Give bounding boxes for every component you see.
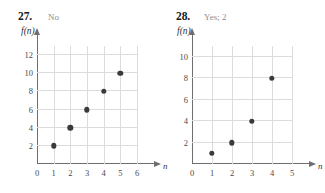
grid-line-horizontal — [192, 120, 292, 121]
problem-27-header: 27.No — [18, 6, 59, 24]
problem-number: 27. — [18, 10, 32, 22]
grid-line-vertical — [272, 46, 273, 164]
x-tick-label: 4 — [265, 168, 279, 178]
data-point — [229, 140, 234, 145]
y-tick-label: 6 — [29, 105, 33, 115]
grid-line-vertical — [137, 46, 138, 164]
data-point — [51, 143, 56, 148]
x-axis-arrow-icon — [309, 161, 316, 167]
grid-line-horizontal — [192, 56, 292, 57]
y-tick-label: 8 — [29, 86, 33, 96]
answer-key-page: 27.No f(n) n 246810120123456 28.Yes; 2 f… — [0, 0, 325, 193]
grid-line-vertical — [252, 46, 253, 164]
grid-line-vertical — [104, 46, 105, 164]
x-axis-label: n — [318, 161, 323, 171]
y-tick-label: 12 — [25, 50, 34, 60]
problem-number: 28. — [176, 10, 190, 22]
y-tick-label: 6 — [184, 95, 188, 105]
y-tick-label: 4 — [184, 116, 188, 126]
x-tick-label: 5 — [285, 168, 299, 178]
problem-28: 28.Yes; 2 f(n) n 246810012345 — [163, 0, 325, 193]
x-tick-label: 6 — [130, 168, 144, 178]
x-tick-label: 1 — [47, 168, 61, 178]
scatter-plot-27: n 246810120123456 — [37, 46, 137, 164]
grid-line-horizontal — [192, 99, 292, 100]
y-tick-label: 4 — [29, 123, 33, 133]
problem-answer: No — [48, 12, 59, 22]
grid-line-vertical — [292, 46, 293, 164]
grid-line-vertical — [120, 46, 121, 164]
y-tick-label: 10 — [25, 68, 34, 78]
data-point — [84, 107, 89, 112]
y-tick-label: 10 — [180, 52, 189, 62]
x-tick-label: 3 — [245, 168, 259, 178]
x-tick-label: 0 — [185, 168, 199, 178]
grid-line-horizontal — [192, 142, 292, 143]
data-point — [269, 75, 274, 80]
problem-answer: Yes; 2 — [204, 12, 226, 22]
data-point — [101, 89, 106, 94]
data-point — [118, 71, 123, 76]
data-point — [68, 125, 73, 130]
y-tick-label: 2 — [184, 138, 188, 148]
x-tick-label: 5 — [113, 168, 127, 178]
data-point — [209, 151, 214, 156]
problem-28-header: 28.Yes; 2 — [176, 6, 226, 24]
x-tick-label: 4 — [97, 168, 111, 178]
x-tick-label: 3 — [80, 168, 94, 178]
y-axis-arrow-icon — [34, 28, 40, 35]
x-axis-arrow-icon — [154, 161, 161, 167]
x-tick-label: 0 — [30, 168, 44, 178]
y-axis-label: f(n) — [21, 26, 35, 36]
scatter-plot-28: n 246810012345 — [192, 46, 292, 164]
x-tick-label: 1 — [205, 168, 219, 178]
problem-27: 27.No f(n) n 246810120123456 — [0, 0, 162, 193]
grid-line-horizontal — [192, 77, 292, 78]
grid-line-vertical — [212, 46, 213, 164]
y-tick-label: 8 — [184, 73, 188, 83]
y-tick-label: 2 — [29, 141, 33, 151]
grid-line-vertical — [232, 46, 233, 164]
y-axis-arrow-icon — [189, 28, 195, 35]
grid-line-vertical — [87, 46, 88, 164]
grid-line-vertical — [70, 46, 71, 164]
data-point — [249, 118, 254, 123]
x-tick-label: 2 — [63, 168, 77, 178]
x-tick-label: 2 — [225, 168, 239, 178]
